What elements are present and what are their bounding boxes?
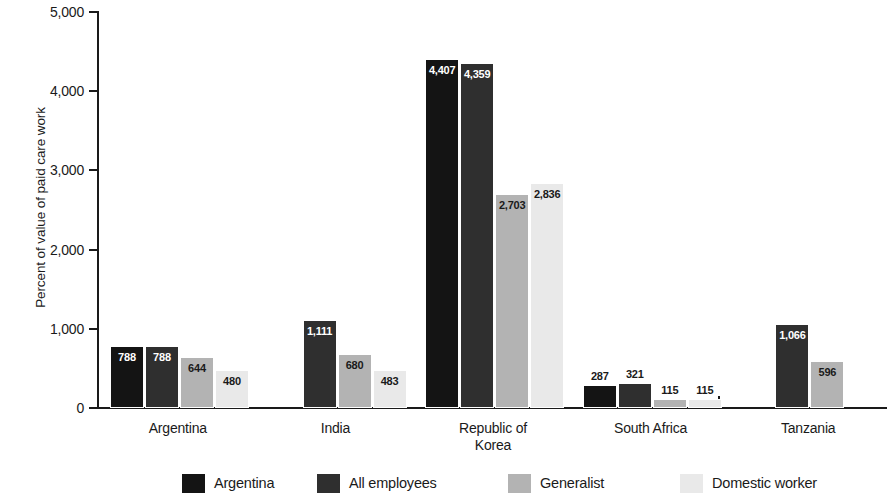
x-axis-category-label: South Africa: [572, 420, 730, 437]
bar-value-label: 115: [688, 384, 722, 396]
y-axis-tick-label: 2,000: [14, 242, 84, 258]
y-axis-tick-label: 5,000: [14, 4, 84, 20]
bar-value-label: 596: [810, 366, 844, 378]
y-axis-tick-label: 4,000: [14, 83, 84, 99]
bar-value-label: 1,111: [303, 325, 337, 337]
bar[interactable]: [583, 385, 617, 408]
bar-value-label: 1,066: [775, 329, 809, 341]
legend-swatch: [317, 474, 340, 493]
legend-label: All employees: [349, 475, 437, 491]
legend-item[interactable]: Argentina: [182, 471, 274, 495]
category-label-line: Republic of: [414, 420, 572, 437]
legend-item[interactable]: Domestic worker: [680, 471, 817, 495]
bar[interactable]: [618, 383, 652, 408]
legend-swatch: [508, 474, 531, 493]
bar-value-label: 644: [180, 362, 214, 374]
y-axis-tick-label: 3,000: [14, 162, 84, 178]
bar-value-label: 287: [583, 370, 617, 382]
bar-value-label: 2,836: [530, 188, 564, 200]
category-label-line: South Africa: [572, 420, 730, 437]
legend-swatch: [182, 474, 205, 493]
bar[interactable]: [653, 399, 687, 408]
bar-value-label: 4,359: [460, 68, 494, 80]
y-axis-tick: [89, 249, 98, 251]
bar-value-label: 680: [338, 359, 372, 371]
bar[interactable]: [688, 399, 722, 408]
bar[interactable]: [425, 59, 459, 408]
category-label-line: India: [257, 420, 415, 437]
bar[interactable]: [495, 194, 529, 408]
bar[interactable]: [530, 183, 564, 408]
bar-chart: Percent of value of paid care work 01,00…: [0, 0, 893, 499]
y-axis-tick: [89, 90, 98, 92]
bar-value-label: 480: [215, 375, 249, 387]
y-axis-tick: [89, 169, 98, 171]
bar-value-label: 115: [653, 384, 687, 396]
legend-label: Argentina: [214, 475, 274, 491]
category-label-line: Tanzania: [729, 420, 887, 437]
legend-item[interactable]: All employees: [317, 471, 437, 495]
legend-label: Generalist: [540, 475, 604, 491]
bar-value-label: 4,407: [425, 64, 459, 76]
category-label-line: Argentina: [99, 420, 257, 437]
bar-value-label: 788: [145, 351, 179, 363]
x-axis-category-label: India: [257, 420, 415, 437]
x-axis-category-label: Tanzania: [729, 420, 887, 437]
chart-legend: ArgentinaAll employeesGeneralistDomestic…: [0, 471, 893, 499]
category-label-line: Korea: [414, 437, 572, 454]
x-axis-category-label: Republic ofKorea: [414, 420, 572, 454]
y-axis-tick-label: 1,000: [14, 321, 84, 337]
x-axis-category-label: Argentina: [99, 420, 257, 437]
y-axis-tick: [89, 328, 98, 330]
bar-value-label: 483: [373, 375, 407, 387]
bar-value-label: 2,703: [495, 199, 529, 211]
y-axis-tick: [89, 407, 98, 409]
y-axis-tick-label: 0: [14, 400, 84, 416]
bar[interactable]: [460, 63, 494, 408]
legend-swatch: [680, 474, 703, 493]
plot-area: 7884,4072877881,1114,3593211,0666446802,…: [99, 12, 887, 408]
legend-item[interactable]: Generalist: [508, 471, 604, 495]
y-axis-tick: [89, 11, 98, 13]
bar-value-label: 788: [110, 351, 144, 363]
legend-label: Domestic worker: [712, 475, 817, 491]
bar-value-label: 321: [618, 368, 652, 380]
